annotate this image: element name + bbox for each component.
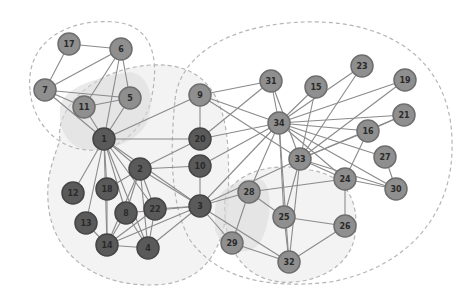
node-28[interactable]: 28 — [238, 181, 260, 203]
node-4[interactable]: 4 — [137, 237, 159, 259]
node-label: 13 — [80, 219, 91, 228]
node-label: 30 — [390, 185, 402, 194]
node-21[interactable]: 21 — [393, 104, 415, 126]
node-27[interactable]: 27 — [374, 146, 396, 168]
node-label: 28 — [243, 188, 255, 197]
node-label: 21 — [398, 111, 410, 120]
node-label: 7 — [42, 86, 48, 95]
node-23[interactable]: 23 — [351, 55, 373, 77]
node-label: 19 — [399, 76, 411, 85]
node-label: 29 — [226, 239, 238, 248]
node-22[interactable]: 22 — [144, 198, 166, 220]
node-label: 14 — [101, 241, 113, 250]
node-18[interactable]: 18 — [96, 178, 118, 200]
node-24[interactable]: 24 — [334, 168, 356, 190]
node-16[interactable]: 16 — [357, 120, 379, 142]
node-3[interactable]: 3 — [189, 195, 211, 217]
node-label: 6 — [118, 45, 124, 54]
node-26[interactable]: 26 — [334, 215, 356, 237]
node-label: 10 — [194, 162, 206, 171]
node-7[interactable]: 7 — [34, 79, 56, 101]
node-label: 5 — [127, 94, 133, 103]
node-25[interactable]: 25 — [273, 206, 295, 228]
node-30[interactable]: 30 — [385, 178, 407, 200]
node-label: 3 — [197, 202, 203, 211]
node-13[interactable]: 13 — [75, 212, 97, 234]
node-1[interactable]: 1 — [93, 128, 115, 150]
node-label: 8 — [123, 209, 129, 218]
node-32[interactable]: 32 — [278, 251, 300, 273]
node-label: 1 — [101, 135, 107, 144]
node-label: 32 — [283, 258, 294, 267]
node-8[interactable]: 8 — [115, 202, 137, 224]
node-29[interactable]: 29 — [221, 232, 243, 254]
node-11[interactable]: 11 — [73, 96, 95, 118]
node-label: 15 — [310, 83, 322, 92]
node-31[interactable]: 31 — [260, 70, 282, 92]
node-label: 9 — [197, 91, 203, 100]
node-label: 31 — [265, 77, 277, 86]
node-label: 11 — [78, 103, 90, 112]
node-33[interactable]: 33 — [289, 148, 311, 170]
node-2[interactable]: 2 — [129, 158, 151, 180]
node-12[interactable]: 12 — [62, 182, 84, 204]
node-label: 25 — [278, 213, 290, 222]
node-label: 26 — [339, 222, 351, 231]
node-17[interactable]: 17 — [58, 33, 80, 55]
node-label: 34 — [273, 119, 285, 128]
node-5[interactable]: 5 — [119, 87, 141, 109]
node-15[interactable]: 15 — [305, 76, 327, 98]
node-34[interactable]: 34 — [268, 112, 290, 134]
node-9[interactable]: 9 — [189, 84, 211, 106]
node-label: 24 — [339, 175, 351, 184]
node-10[interactable]: 10 — [189, 155, 211, 177]
node-20[interactable]: 20 — [189, 128, 211, 150]
node-6[interactable]: 6 — [110, 38, 132, 60]
node-label: 27 — [379, 153, 390, 162]
node-label: 17 — [63, 40, 74, 49]
node-label: 4 — [145, 244, 151, 253]
node-label: 12 — [67, 189, 78, 198]
node-label: 20 — [194, 135, 206, 144]
node-19[interactable]: 19 — [394, 69, 416, 91]
node-label: 22 — [149, 205, 160, 214]
network-graph: 1234567891011121314151617181920212223242… — [0, 0, 472, 301]
node-label: 33 — [294, 155, 305, 164]
node-label: 2 — [137, 165, 143, 174]
node-label: 18 — [101, 185, 113, 194]
node-label: 23 — [356, 62, 367, 71]
node-14[interactable]: 14 — [96, 234, 118, 256]
node-label: 16 — [362, 127, 374, 136]
